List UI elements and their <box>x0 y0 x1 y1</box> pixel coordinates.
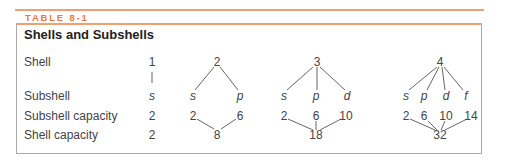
subshell-cap-4-f: 14 <box>464 109 477 123</box>
subshell-cap-4-d: 10 <box>439 109 452 123</box>
subshell-cap-3-p: 6 <box>313 109 320 123</box>
shell-cap-2: 8 <box>214 128 221 142</box>
subshell-cap-3-d: 10 <box>339 109 352 123</box>
subshell-4-p: p <box>421 89 428 103</box>
subshell-cap-4-p: 6 <box>421 109 428 123</box>
subshell-3-d: d <box>344 89 351 103</box>
shell-cap-3: 18 <box>309 128 322 142</box>
subshell-2-p: p <box>237 89 244 103</box>
subshell-cap-2-s: 2 <box>190 109 197 123</box>
subshell-cap-3-s: 2 <box>281 109 288 123</box>
subshell-cap-2-p: 6 <box>237 109 244 123</box>
top-rule <box>15 9 484 11</box>
subshell-4-f: f <box>464 89 467 103</box>
shell-1: 1 <box>149 55 156 69</box>
row-label-subshell: Subshell <box>24 89 70 103</box>
table-title: Shells and Subshells <box>24 27 154 42</box>
row-label-shell-capacity: Shell capacity <box>24 128 98 142</box>
subshell-cap-4-s: 2 <box>403 109 410 123</box>
row-label-shell: Shell <box>24 55 51 69</box>
shell-cap-4: 32 <box>433 128 446 142</box>
subshell-1-s: s <box>149 89 155 103</box>
subshell-3-s: s <box>281 89 287 103</box>
subshell-4-s: s <box>403 89 409 103</box>
shell-3: 3 <box>314 55 321 69</box>
shell-2: 2 <box>214 55 221 69</box>
row-label-subshell-capacity: Subshell capacity <box>24 109 117 123</box>
subshell-2-s: s <box>190 89 196 103</box>
subshell-cap-1-s: 2 <box>149 109 156 123</box>
shell-cap-1: 2 <box>149 128 156 142</box>
shell-4: 4 <box>437 55 444 69</box>
subshell-4-d: d <box>443 89 450 103</box>
table-label: TABLE 8-1 <box>25 12 89 23</box>
subshell-3-p: p <box>313 89 320 103</box>
